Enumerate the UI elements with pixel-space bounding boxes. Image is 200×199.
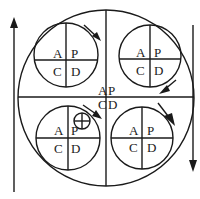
label-act: A xyxy=(129,123,139,138)
label-do: D xyxy=(71,141,80,156)
label-check: C xyxy=(53,64,62,79)
sub-cycle-top-right: A P C D xyxy=(119,25,181,94)
center-label-plan: P xyxy=(108,83,115,98)
center-label-act: A xyxy=(98,83,108,98)
label-plan: P xyxy=(71,46,78,61)
label-plan: P xyxy=(147,123,154,138)
label-check: C xyxy=(136,63,145,78)
label-act: A xyxy=(54,123,64,138)
label-check: C xyxy=(54,141,63,156)
cycle-arrow-icon xyxy=(84,25,101,41)
right-down-arrow-icon xyxy=(189,25,197,172)
center-label-check: C xyxy=(98,97,107,112)
crossed-circle-icon xyxy=(74,113,90,129)
label-act: A xyxy=(53,46,63,61)
pdca-diagram: A P C D A P C D A P C D A P C D xyxy=(0,0,200,199)
sub-cycle-top-left: A P C D xyxy=(34,23,101,87)
label-act: A xyxy=(136,45,146,60)
left-up-arrow-icon xyxy=(10,17,18,192)
sub-cycle-bottom-left: A P C D xyxy=(36,105,102,170)
label-do: D xyxy=(71,64,80,79)
cycle-arrow-icon xyxy=(158,103,175,126)
label-do: D xyxy=(147,140,156,155)
label-check: C xyxy=(129,140,138,155)
label-do: D xyxy=(154,63,163,78)
label-plan: P xyxy=(154,45,161,60)
center-label-do: D xyxy=(108,97,117,112)
sub-cycle-bottom-right: A P C D xyxy=(111,103,175,169)
